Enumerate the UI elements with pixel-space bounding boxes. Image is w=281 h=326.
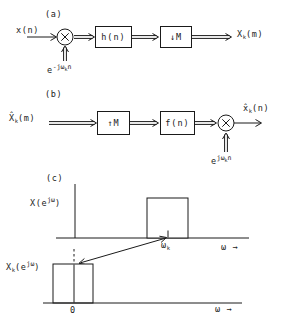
- modulator-a-exp-post: n: [67, 63, 71, 71]
- arrow-b-output: [234, 120, 262, 127]
- bottom-spectrum-ylabel: Xk(ejω): [6, 261, 40, 273]
- modulator-label-a: e-jωkn: [47, 64, 71, 75]
- bottom-ylabel-mid: (e: [15, 262, 26, 272]
- bottom-spectrum-axes: [43, 249, 242, 303]
- bottom-spectrum-band: [53, 264, 93, 303]
- arrow-b-interp-to-f: [130, 120, 159, 127]
- multiplier-icon-b: [218, 115, 234, 131]
- arrow-a-output: [192, 34, 232, 41]
- arrow-b-f-to-mult: [195, 120, 217, 127]
- panel-c-tag: (c): [46, 174, 63, 183]
- filter-block-f: f(n): [160, 111, 195, 135]
- arrow-a-modulator-up: [62, 46, 69, 61]
- top-ylabel-post: ): [55, 198, 61, 208]
- omega-k-tick-label: ωk: [161, 241, 170, 251]
- output-signal-label-a: Xk(m): [237, 30, 263, 40]
- origin-tick-label: 0: [70, 306, 76, 315]
- output-b-args: (n): [252, 103, 269, 113]
- arrow-b-modulator-up: [223, 133, 230, 152]
- top-spectrum-xlabel: ω →: [221, 243, 238, 252]
- modulator-label-b: ejωkn: [211, 155, 231, 166]
- bottom-ylabel-post: ): [34, 262, 40, 272]
- decimator-block: ↓M: [160, 26, 192, 48]
- filter-block-f-label: f(n): [165, 118, 189, 128]
- interpolator-block-label: ↑M: [107, 118, 119, 128]
- top-ylabel-pre: X(e: [30, 198, 47, 208]
- input-signal-label-a: x(n): [16, 26, 39, 35]
- top-ylabel-sup: jω: [47, 196, 55, 204]
- arrow-b-input: [49, 120, 97, 127]
- modulator-b-exp: jω: [217, 154, 225, 162]
- top-spectrum-ylabel: X(ejω): [30, 197, 61, 208]
- panel-b-tag: (b): [45, 90, 62, 99]
- panel-a-tag: (a): [45, 10, 62, 19]
- shift-arrow: [79, 236, 167, 264]
- bottom-spectrum-xlabel: ω →: [215, 305, 232, 314]
- filterbank-figure: (a) x(n) h(n) ↓M Xk(m) e-jωkn (b) X̂k(m)…: [0, 0, 281, 326]
- modulator-b-exp-post: n: [228, 154, 232, 162]
- output-signal-label-b: x̂k(n): [243, 104, 269, 114]
- omega-k-sub: k: [167, 245, 170, 251]
- filter-block-h-label: h(n): [101, 32, 125, 42]
- input-b-args: (m): [18, 113, 35, 123]
- filter-block-h: h(n): [95, 26, 132, 48]
- modulator-a-exp: -jω: [53, 63, 65, 71]
- multiplier-icon-a: [57, 29, 73, 45]
- decimator-block-label: ↓M: [170, 32, 182, 42]
- arrow-a-mult-to-h: [74, 34, 95, 41]
- interpolator-block: ↑M: [97, 111, 130, 135]
- output-a-args: (m): [246, 29, 263, 39]
- diagram-linework: [0, 0, 281, 326]
- arrow-a-h-to-decimator: [132, 34, 159, 41]
- input-signal-label-b: X̂k(m): [9, 114, 35, 124]
